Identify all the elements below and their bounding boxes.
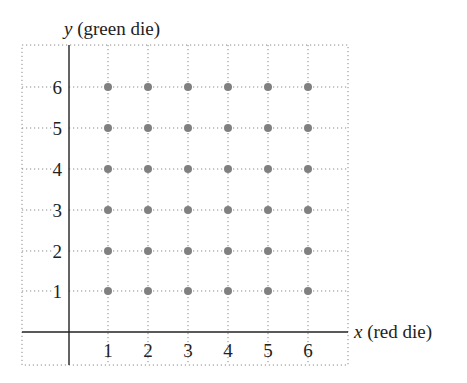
data-point (224, 206, 232, 214)
data-point (224, 124, 232, 132)
data-point (304, 247, 312, 255)
x-tick-label: 4 (223, 340, 233, 361)
data-point (184, 206, 192, 214)
data-point (264, 83, 272, 91)
data-point (264, 124, 272, 132)
data-point (304, 287, 312, 295)
data-point (184, 247, 192, 255)
data-point (264, 287, 272, 295)
x-tick-label: 2 (143, 340, 153, 361)
x-axis-description: (red die) (362, 321, 432, 343)
data-point (224, 83, 232, 91)
data-point (224, 247, 232, 255)
data-points (104, 83, 312, 295)
y-tick-label: 4 (53, 159, 63, 180)
x-tick-label: 5 (263, 340, 273, 361)
data-point (104, 83, 112, 91)
data-point (104, 165, 112, 173)
data-point (104, 206, 112, 214)
data-point (184, 165, 192, 173)
x-tick-label: 3 (183, 340, 193, 361)
data-point (144, 287, 152, 295)
y-axis-label: y (green die) (62, 18, 160, 40)
data-point (264, 165, 272, 173)
data-point (144, 124, 152, 132)
data-point (144, 165, 152, 173)
data-point (144, 247, 152, 255)
data-point (184, 287, 192, 295)
x-tick-labels: 123456 (103, 340, 313, 361)
y-tick-label: 6 (53, 77, 63, 98)
dice-outcome-scatter-chart: 123456 123456 y (green die) x (red die) (0, 0, 467, 383)
data-point (224, 287, 232, 295)
y-axis-variable: y (62, 18, 73, 39)
x-tick-label: 6 (303, 340, 313, 361)
data-point (144, 206, 152, 214)
y-axis-description: (green die) (72, 18, 160, 40)
x-axis-label: x (red die) (353, 321, 432, 343)
y-tick-label: 5 (53, 118, 63, 139)
data-point (104, 287, 112, 295)
y-tick-labels: 123456 (53, 77, 63, 302)
dotted-grid (22, 45, 348, 365)
data-point (104, 247, 112, 255)
data-point (264, 206, 272, 214)
data-point (264, 247, 272, 255)
data-point (184, 124, 192, 132)
y-tick-label: 3 (53, 200, 63, 221)
outer-dotted-border (22, 45, 348, 365)
data-point (144, 83, 152, 91)
data-point (304, 165, 312, 173)
data-point (304, 206, 312, 214)
x-tick-label: 1 (103, 340, 113, 361)
data-point (224, 165, 232, 173)
y-tick-label: 2 (53, 241, 63, 262)
data-point (104, 124, 112, 132)
data-point (304, 83, 312, 91)
data-point (304, 124, 312, 132)
data-point (184, 83, 192, 91)
y-tick-label: 1 (53, 281, 63, 302)
